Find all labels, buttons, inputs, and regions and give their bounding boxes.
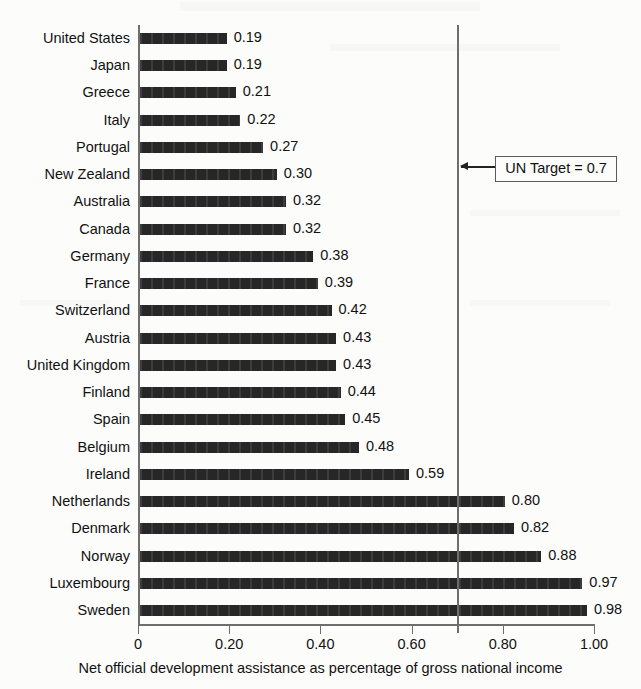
x-tick — [412, 626, 413, 634]
category-label: Australia — [0, 193, 130, 209]
bar — [140, 414, 345, 425]
bar-value-label: 0.22 — [247, 111, 275, 127]
category-label: Portugal — [0, 139, 130, 155]
bar — [140, 169, 277, 180]
scan-artifact — [470, 210, 620, 216]
bar — [140, 115, 240, 126]
bar — [140, 442, 359, 453]
bar — [140, 60, 227, 71]
category-label: Denmark — [0, 520, 130, 536]
bar — [140, 224, 286, 235]
x-axis-line — [138, 624, 595, 626]
un-target-callout: UN Target = 0.7 — [495, 156, 617, 182]
bar — [140, 251, 313, 262]
bar — [140, 469, 409, 480]
scan-artifact — [330, 44, 560, 51]
bar-value-label: 0.98 — [594, 601, 622, 617]
bar — [140, 305, 332, 316]
bar-value-label: 0.42 — [339, 301, 367, 317]
x-tick — [229, 626, 230, 634]
bar-value-label: 0.39 — [325, 274, 353, 290]
bar-value-label: 0.59 — [416, 465, 444, 481]
bar-value-label: 0.32 — [293, 220, 321, 236]
bar — [140, 551, 541, 562]
category-label: France — [0, 275, 130, 291]
x-tick-label: 1.00 — [580, 636, 608, 652]
bar — [140, 387, 341, 398]
category-label: New Zealand — [0, 166, 130, 182]
x-tick-label: 0.40 — [306, 636, 334, 652]
bar-value-label: 0.80 — [512, 492, 540, 508]
category-label: Luxembourg — [0, 575, 130, 591]
category-label: Finland — [0, 384, 130, 400]
bar-value-label: 0.19 — [234, 56, 262, 72]
category-label: Greece — [0, 84, 130, 100]
category-label: United Kingdom — [0, 357, 130, 373]
scan-artifact — [180, 2, 480, 11]
category-label: Italy — [0, 112, 130, 128]
bar-value-label: 0.27 — [270, 138, 298, 154]
category-label: Austria — [0, 330, 130, 346]
un-target-arrow — [461, 166, 495, 168]
bar — [140, 333, 336, 344]
bar — [140, 278, 318, 289]
un-target-reference-line — [457, 25, 459, 633]
category-label: Germany — [0, 248, 130, 264]
bar-value-label: 0.21 — [243, 83, 271, 99]
bar — [140, 87, 236, 98]
category-label: Japan — [0, 57, 130, 73]
bar-value-label: 0.30 — [284, 165, 312, 181]
bar-value-label: 0.19 — [234, 29, 262, 45]
bar-value-label: 0.43 — [343, 356, 371, 372]
bar-value-label: 0.44 — [348, 383, 376, 399]
x-tick — [320, 626, 321, 634]
x-tick-label: 0.20 — [215, 636, 243, 652]
bar — [140, 196, 286, 207]
bar-value-label: 0.97 — [589, 574, 617, 590]
bar — [140, 142, 263, 153]
x-tick — [138, 626, 139, 634]
bar — [140, 496, 505, 507]
bar-value-label: 0.82 — [521, 519, 549, 535]
category-label: Sweden — [0, 602, 130, 618]
bar-value-label: 0.38 — [320, 247, 348, 263]
bar-value-label: 0.32 — [293, 192, 321, 208]
category-label: Spain — [0, 411, 130, 427]
category-label: Switzerland — [0, 302, 130, 318]
scan-artifact — [470, 300, 610, 306]
x-tick-label: 0 — [134, 636, 142, 652]
category-label: Belgium — [0, 439, 130, 455]
category-label: Norway — [0, 548, 130, 564]
bar-value-label: 0.43 — [343, 329, 371, 345]
bar — [140, 605, 587, 616]
category-label: United States — [0, 30, 130, 46]
x-tick-label: 0.60 — [397, 636, 425, 652]
category-label: Ireland — [0, 466, 130, 482]
bar — [140, 578, 582, 589]
bar-value-label: 0.88 — [548, 547, 576, 563]
x-tick-label: 0.80 — [489, 636, 517, 652]
category-label: Netherlands — [0, 493, 130, 509]
x-tick — [503, 626, 504, 634]
chart-container: United States0.19Japan0.19Greece0.21Ital… — [0, 0, 641, 689]
bar — [140, 33, 227, 44]
x-axis-title: Net official development assistance as p… — [0, 660, 641, 676]
bar-value-label: 0.45 — [352, 410, 380, 426]
bar-value-label: 0.48 — [366, 438, 394, 454]
bar — [140, 360, 336, 371]
category-label: Canada — [0, 221, 130, 237]
x-tick — [594, 626, 595, 634]
